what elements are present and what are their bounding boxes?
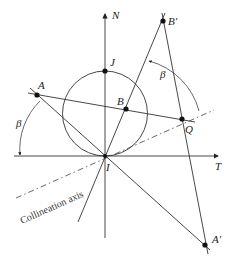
beta-label-left: β — [15, 117, 22, 129]
point-a-label: A — [37, 79, 45, 91]
beta-arc-left — [20, 101, 40, 155]
point-b-label: B — [117, 95, 124, 107]
point-i-label: I — [105, 161, 111, 173]
point-b-prime — [160, 18, 165, 23]
collineation-axis-label: Collineation axis — [18, 188, 85, 226]
collineation-diagram: N T Collineation axis β β A J B Q B′ A′ … — [0, 0, 234, 263]
line-abq — [28, 93, 195, 122]
point-j — [102, 68, 107, 73]
beta-arc-right — [149, 61, 199, 111]
t-axis-label: T — [215, 160, 222, 172]
point-q — [179, 116, 184, 121]
point-j-label: J — [110, 56, 116, 68]
point-i — [103, 154, 107, 158]
point-a — [34, 92, 39, 97]
point-a-prime-label: A′ — [211, 233, 222, 245]
point-b — [123, 106, 128, 111]
point-a-prime — [202, 242, 207, 247]
line-bprime-b-i — [78, 13, 165, 222]
point-b-prime-label: B′ — [168, 15, 178, 27]
n-axis-label: N — [111, 9, 120, 21]
point-q-label: Q — [185, 123, 193, 135]
line-a-i-aprime — [30, 88, 210, 250]
beta-label-right: β — [159, 68, 166, 80]
